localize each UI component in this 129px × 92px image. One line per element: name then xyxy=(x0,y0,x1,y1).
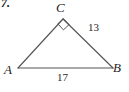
geometry-figure: 7. C A B 13 17 xyxy=(0,0,129,92)
vertex-label-a: A xyxy=(4,63,12,76)
triangle-side-ac xyxy=(18,19,63,68)
problem-number: 7. xyxy=(1,0,10,9)
right-angle-marker-icon xyxy=(58,19,69,30)
vertex-label-c: C xyxy=(56,1,65,14)
vertex-label-b: B xyxy=(113,61,121,74)
side-length-label-cb: 13 xyxy=(88,22,99,33)
side-length-label-ab: 17 xyxy=(57,72,68,83)
